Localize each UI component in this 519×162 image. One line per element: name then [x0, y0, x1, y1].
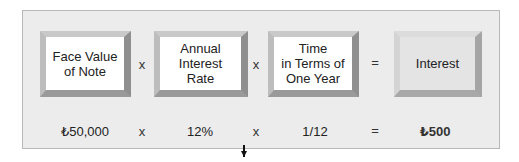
time-label-line3: One Year	[281, 71, 344, 86]
time-label-line1: Time	[281, 41, 344, 56]
interest-box: Interest	[394, 31, 482, 97]
times-operator-values-2: x	[249, 124, 263, 139]
rate-label-line2: Interest	[179, 56, 222, 71]
time-label-line2: in Terms of	[281, 56, 344, 71]
equals-operator: =	[368, 55, 382, 70]
times-operator-values-1: x	[135, 124, 149, 139]
times-operator-2: x	[249, 57, 263, 72]
time-box: Time in Terms of One Year	[268, 31, 359, 97]
rate-label-line1: Annual	[179, 41, 222, 56]
face-value-amount: ₺50,000	[55, 124, 115, 139]
rate-label-line3: Rate	[179, 71, 222, 86]
equals-operator-values: =	[368, 123, 382, 138]
face-value-label-line2: of Note	[53, 64, 118, 79]
face-value-label-line1: Face Value	[53, 49, 118, 64]
text-cursor-icon	[243, 145, 245, 157]
times-operator-1: x	[135, 57, 149, 72]
face-value-box: Face Value of Note	[40, 31, 131, 97]
time-amount: 1/12	[295, 124, 335, 139]
annual-rate-box: Annual Interest Rate	[154, 31, 248, 97]
rate-amount: 12%	[180, 124, 220, 139]
interest-amount: ₺500	[410, 124, 460, 139]
interest-label: Interest	[416, 56, 459, 71]
